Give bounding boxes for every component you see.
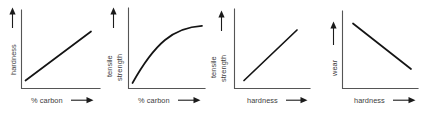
x-axis-arrow-icon-3 [286,97,308,103]
plot-area-4: wear hardness [312,0,424,115]
y-axis-label-3-line1: tensile [209,56,218,78]
axis-lines-1 [22,10,101,89]
y-axis-label-2-line2: strength [115,54,124,81]
y-axis-label-4: wear [330,59,339,77]
chart-panel-hardness-vs-carbon: hardness % carbon [0,0,108,115]
plot-area-1: hardness % carbon [0,0,108,115]
x-axis-label-4: hardness [354,96,385,105]
x-axis-arrow-icon-4 [393,97,416,103]
chart-panel-tensile-strength-vs-hardness: tensile strength hardness [202,0,314,115]
y-axis-arrow-icon-1 [9,8,15,29]
plot-area-3: tensile strength hardness [202,0,314,115]
y-axis-label-1: hardness [9,44,18,75]
y-axis-arrow-icon-3 [218,11,224,32]
materials-property-chart-figure: hardness % carbon tensile strength [0,0,424,115]
data-series-1 [26,32,92,81]
chart-panel-tensile-strength-vs-carbon: tensile strength % carbon [101,0,211,115]
x-axis-arrow-icon-1 [71,97,94,103]
y-axis-arrow-icon-2 [110,8,116,29]
y-axis-label-2-line1: tensile [105,55,114,77]
x-axis-arrow-icon-2 [178,97,201,103]
y-axis-arrow-icon-4 [330,22,336,46]
chart-panel-wear-vs-hardness: wear hardness [312,0,424,115]
data-series-2 [133,26,203,83]
data-series-4 [353,24,411,70]
axis-lines-3 [235,9,311,89]
axis-lines-2 [129,8,206,89]
plot-area-2: tensile strength % carbon [101,0,211,115]
x-axis-label-1: % carbon [31,96,63,105]
axis-lines-4 [343,11,419,89]
y-axis-label-3-line2: strength [219,55,228,82]
data-series-3 [244,30,297,81]
x-axis-label-2: % carbon [138,96,170,105]
x-axis-label-3: hardness [247,96,278,105]
